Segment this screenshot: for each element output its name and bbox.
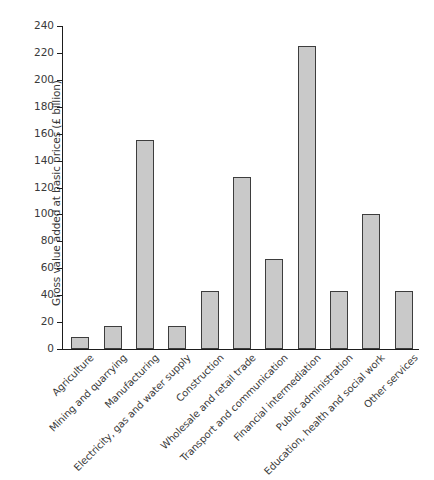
bar xyxy=(265,259,283,349)
bar-chart: Gross value added at basic prices (£ bil… xyxy=(0,0,434,480)
y-tick-label: 140 xyxy=(34,154,54,166)
bar-series xyxy=(62,26,418,349)
y-tick-label: 0 xyxy=(47,342,54,354)
bar xyxy=(330,291,348,349)
plot-area: 020406080100120140160180200220240 xyxy=(62,26,418,349)
y-tick-label: 160 xyxy=(34,127,54,139)
x-axis-label: Electricity, gas and water supply xyxy=(72,352,193,473)
bar xyxy=(201,291,219,349)
bar xyxy=(104,326,122,349)
bar xyxy=(362,214,380,349)
y-tick-label: 240 xyxy=(34,19,54,31)
bar xyxy=(71,337,89,349)
y-tick-label: 100 xyxy=(34,207,54,219)
bar xyxy=(298,46,316,349)
bar xyxy=(168,326,186,349)
x-axis-labels: AgricultureMining and quarryingManufactu… xyxy=(62,352,434,480)
x-axis-label: Education, health and social work xyxy=(262,352,387,477)
bar xyxy=(395,291,413,349)
y-tick-label: 40 xyxy=(41,288,54,300)
y-tick-label: 180 xyxy=(34,100,54,112)
y-tick-label: 80 xyxy=(41,234,54,246)
bar xyxy=(136,140,154,349)
y-tick-label: 20 xyxy=(41,315,54,327)
y-tick-label: 220 xyxy=(34,46,54,58)
bar xyxy=(233,177,251,349)
x-axis-line xyxy=(62,349,419,350)
y-tick: 0 xyxy=(57,349,62,350)
y-tick-label: 60 xyxy=(41,261,54,273)
y-tick-label: 120 xyxy=(34,181,54,193)
y-tick-label: 200 xyxy=(34,73,54,85)
